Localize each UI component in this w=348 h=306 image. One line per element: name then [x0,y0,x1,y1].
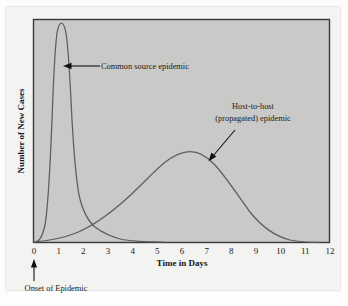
x-axis-ticks: 0 1 2 3 4 5 6 7 8 9 10 11 12 [32,246,335,256]
onset-arrowhead-icon [31,259,37,268]
onset-label: Onset of Epidemic [25,284,88,293]
x-tick-7: 7 [204,246,209,256]
x-tick-4: 4 [130,246,135,256]
x-tick-12: 12 [326,246,335,256]
figure-root: 0 1 2 3 4 5 6 7 8 9 10 11 12 Time in Day… [0,0,348,306]
x-axis-title: Time in Days [157,258,208,268]
y-axis-title: Number of New Cases [16,88,26,174]
x-tick-5: 5 [155,246,160,256]
host-to-host-label-line1: Host-to-host [232,102,275,111]
x-tick-6: 6 [180,246,185,256]
x-tick-9: 9 [254,246,259,256]
x-tick-3: 3 [106,246,111,256]
x-tick-10: 10 [276,246,286,256]
common-source-label: Common source epidemic [101,62,189,71]
x-tick-2: 2 [81,246,86,256]
x-tick-0: 0 [32,246,37,256]
plot-area-frame [34,20,330,243]
x-tick-1: 1 [56,246,61,256]
annotation-onset: Onset of Epidemic [25,259,88,293]
host-to-host-label-line2: (propagated) epidemic [215,114,291,123]
epidemic-curve-chart: 0 1 2 3 4 5 6 7 8 9 10 11 12 Time in Day… [0,0,348,306]
x-tick-11: 11 [301,246,310,256]
x-tick-8: 8 [229,246,234,256]
